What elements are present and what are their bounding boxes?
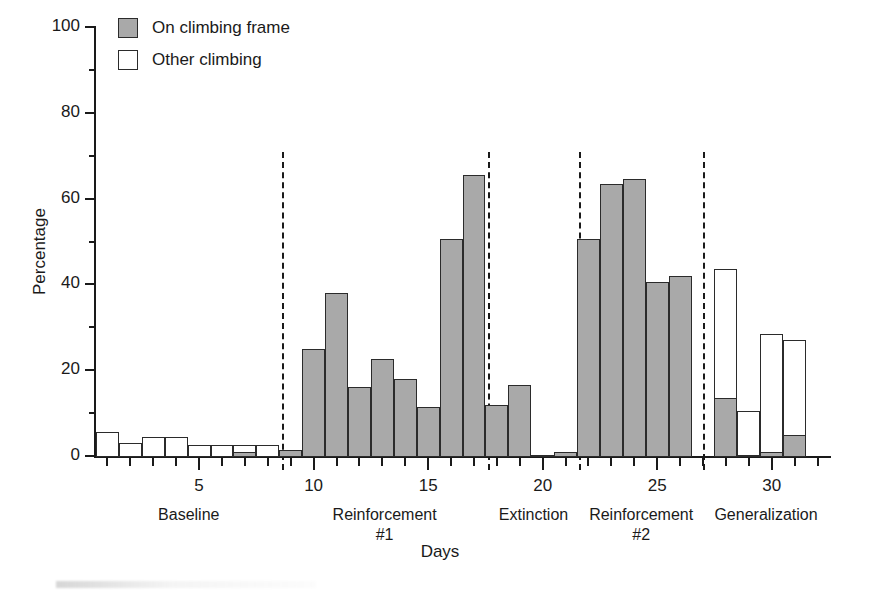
- x-tick-minor: [473, 458, 475, 466]
- x-tick-minor: [175, 458, 177, 466]
- bar-on-climbing-frame: [600, 184, 623, 457]
- bar-on-climbing-frame: [783, 435, 806, 457]
- bar-on-climbing-frame: [371, 359, 394, 457]
- bar-other-climbing: [188, 445, 211, 457]
- x-tick-minor: [152, 458, 154, 466]
- x-tick-minor: [336, 458, 338, 466]
- x-tick-label: 25: [627, 476, 687, 496]
- phase-divider: [703, 152, 705, 470]
- x-tick-minor: [404, 458, 406, 466]
- bar-on-climbing-frame: [669, 276, 692, 457]
- y-tick-major: [85, 26, 96, 28]
- y-tick-label: 0: [18, 445, 80, 465]
- bar-on-climbing-frame: [554, 452, 577, 457]
- y-tick-minor: [89, 412, 96, 414]
- bar-on-climbing-frame: [440, 239, 463, 457]
- x-tick-label: 5: [169, 476, 229, 496]
- phase-divider: [282, 152, 284, 470]
- bar-on-climbing-frame: [485, 405, 508, 457]
- bar-on-climbing-frame: [394, 379, 417, 457]
- legend-swatch-gray-icon: [118, 18, 138, 38]
- x-tick-minor: [519, 458, 521, 466]
- y-tick-major: [85, 283, 96, 285]
- y-tick-major: [85, 455, 96, 457]
- x-tick-minor: [587, 458, 589, 466]
- y-tick-minor: [89, 326, 96, 328]
- legend-item-on-climbing-frame: On climbing frame: [118, 18, 290, 38]
- bar-other-climbing: [783, 340, 806, 435]
- bar-other-climbing: [211, 445, 234, 457]
- x-tick-minor: [610, 458, 612, 466]
- x-tick-minor: [290, 458, 292, 466]
- x-tick-major: [198, 458, 200, 470]
- x-tick-minor: [679, 458, 681, 466]
- legend-swatch-white-icon: [118, 50, 138, 70]
- y-axis-line: [94, 27, 96, 458]
- y-tick-label: 100: [18, 16, 80, 36]
- x-tick-label: 20: [513, 476, 573, 496]
- bar-on-climbing-frame: [302, 349, 325, 457]
- y-tick-label: 60: [18, 188, 80, 208]
- legend-label-on-climbing-frame: On climbing frame: [152, 18, 290, 38]
- bar-on-climbing-frame: [463, 175, 486, 457]
- x-tick-minor: [794, 458, 796, 466]
- y-tick-major: [85, 369, 96, 371]
- x-tick-minor: [129, 458, 131, 466]
- x-tick-minor: [496, 458, 498, 466]
- phase-label: Generalization: [676, 505, 856, 525]
- x-tick-minor: [565, 458, 567, 466]
- x-tick-minor: [244, 458, 246, 466]
- bar-other-climbing: [737, 411, 760, 456]
- x-tick-minor: [106, 458, 108, 466]
- x-tick-label: 10: [284, 476, 344, 496]
- x-tick-minor: [381, 458, 383, 466]
- x-tick-minor: [450, 458, 452, 466]
- x-tick-minor: [221, 458, 223, 466]
- phase-label: Baseline: [99, 505, 279, 525]
- bar-on-climbing-frame: [714, 398, 737, 457]
- x-tick-minor: [633, 458, 635, 466]
- bar-other-climbing: [760, 334, 783, 453]
- bar-on-climbing-frame: [417, 407, 440, 457]
- x-tick-major: [656, 458, 658, 470]
- bar-other-climbing: [714, 269, 737, 399]
- x-tick-major: [771, 458, 773, 470]
- bar-other-climbing: [142, 437, 165, 457]
- y-tick-label: 20: [18, 359, 80, 379]
- x-tick-minor: [267, 458, 269, 466]
- y-tick-minor: [89, 69, 96, 71]
- bar-on-climbing-frame: [348, 387, 371, 457]
- bar-on-climbing-frame: [646, 282, 669, 457]
- y-tick-label: 80: [18, 102, 80, 122]
- chart-figure: Percentage Days 020406080100 51015202530…: [0, 0, 880, 594]
- x-tick-major: [542, 458, 544, 470]
- bar-on-climbing-frame: [325, 293, 348, 457]
- x-tick-minor: [817, 458, 819, 466]
- x-tick-minor: [725, 458, 727, 466]
- bar-other-climbing: [165, 437, 188, 457]
- y-tick-label: 40: [18, 273, 80, 293]
- x-tick-label: 15: [398, 476, 458, 496]
- bar-other-climbing: [256, 445, 279, 457]
- y-tick-major: [85, 198, 96, 200]
- legend-item-other-climbing: Other climbing: [118, 50, 262, 70]
- x-axis-title: Days: [380, 542, 500, 562]
- x-tick-label: 30: [742, 476, 802, 496]
- bar-other-climbing: [96, 432, 119, 457]
- bar-on-climbing-frame: [508, 385, 531, 457]
- x-tick-major: [313, 458, 315, 470]
- bar-on-climbing-frame: [577, 239, 600, 457]
- bar-on-climbing-frame: [279, 450, 302, 457]
- bar-other-climbing: [119, 443, 142, 457]
- bar-on-climbing-frame: [623, 179, 646, 457]
- page-artifact: [56, 581, 316, 588]
- y-tick-minor: [89, 241, 96, 243]
- y-tick-minor: [89, 155, 96, 157]
- x-tick-minor: [748, 458, 750, 466]
- x-tick-major: [427, 458, 429, 470]
- legend-label-other-climbing: Other climbing: [152, 50, 262, 70]
- bar-on-climbing-frame: [531, 455, 554, 457]
- x-tick-minor: [358, 458, 360, 466]
- bar-other-climbing: [233, 445, 256, 452]
- y-tick-major: [85, 112, 96, 114]
